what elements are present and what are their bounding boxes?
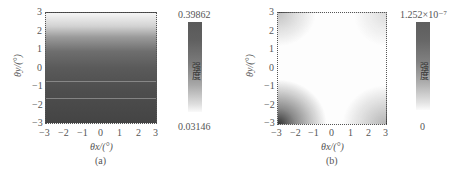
- ytick-b-2: 1: [269, 44, 274, 54]
- ytick-b-5: −2: [264, 100, 275, 110]
- heatmap-b: [277, 12, 387, 125]
- xtick-b-5: 2: [366, 128, 371, 138]
- ytick-b-4: −1: [264, 81, 275, 91]
- panel-b: θy/(°) 3 2 1 0 −1 −2 −3 −3 −2 −1 0 1 2 3…: [0, 0, 457, 175]
- xtick-b-1: −2: [290, 128, 301, 138]
- x-axis-label-b: θx/(°): [321, 141, 344, 152]
- colorbar-max-b: 1.252×10⁻⁷: [400, 9, 447, 20]
- xtick-b-4: 1: [348, 128, 353, 138]
- ytick-b-1: 2: [269, 26, 274, 36]
- colorbar-label-b: 强度: [418, 62, 431, 80]
- ytick-b-0: 3: [269, 7, 274, 17]
- xtick-b-2: −1: [308, 128, 319, 138]
- y-axis-label-b: θy/(°): [244, 54, 255, 77]
- xtick-b-0: −3: [271, 128, 282, 138]
- panel-caption-b: (b): [326, 155, 338, 166]
- xtick-b-3: 0: [329, 128, 334, 138]
- xtick-b-6: 3: [383, 128, 388, 138]
- ytick-b-3: 0: [269, 63, 274, 73]
- colorbar-min-b: 0: [420, 121, 425, 132]
